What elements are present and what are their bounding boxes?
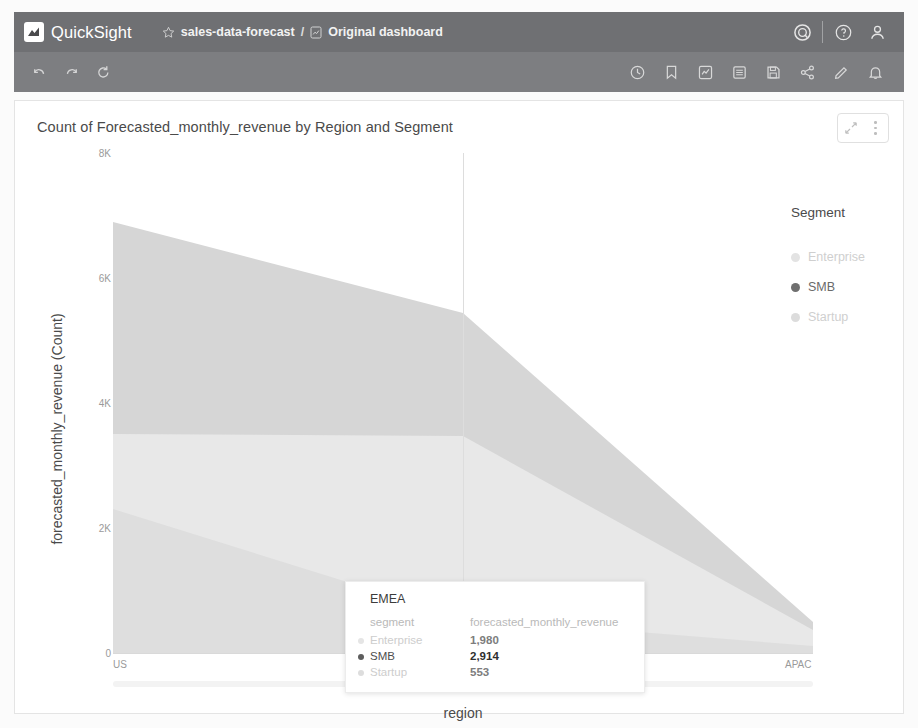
visual-container: Count of Forecasted_monthly_revenue by R… xyxy=(14,100,904,714)
tooltip-row-label: SMB xyxy=(358,648,470,664)
legend-item-label: Startup xyxy=(808,310,848,324)
breadcrumb-sheet-name[interactable]: Original dashboard xyxy=(328,25,443,39)
x-tick: US xyxy=(113,659,127,670)
y-axis-ticks: 8K 6K 4K 2K 0 xyxy=(63,153,111,653)
dashboard-icon xyxy=(310,26,322,39)
legend-item-enterprise[interactable]: Enterprise xyxy=(791,242,901,272)
brand[interactable]: QuickSight xyxy=(24,22,146,42)
tooltip-col-value: forecasted_monthly_revenue xyxy=(470,615,632,632)
y-tick: 6K xyxy=(71,273,111,284)
page-title: Count of Forecasted_monthly_revenue by R… xyxy=(37,119,453,135)
app-header: QuickSight sales-data-forecast / Origina… xyxy=(14,12,904,52)
alerts-icon[interactable] xyxy=(862,59,888,85)
user-profile-icon[interactable] xyxy=(860,12,894,52)
undo-icon[interactable] xyxy=(26,59,52,85)
star-icon[interactable] xyxy=(162,26,175,39)
tooltip-row-label: Enterprise xyxy=(358,632,470,648)
tooltip-marker-icon xyxy=(358,670,364,676)
breadcrumb-separator: / xyxy=(301,25,304,39)
reset-icon[interactable] xyxy=(90,59,116,85)
toolbar-right-group xyxy=(620,59,892,85)
y-tick: 8K xyxy=(71,148,111,159)
tooltip-marker-icon xyxy=(358,638,364,644)
legend-marker-icon xyxy=(791,283,800,292)
y-tick: 4K xyxy=(71,398,111,409)
tooltip-row-value: 2,914 xyxy=(470,648,632,664)
legend-item-smb[interactable]: SMB xyxy=(791,272,901,302)
history-icon[interactable] xyxy=(624,59,650,85)
bookmark-icon[interactable] xyxy=(658,59,684,85)
brand-name: QuickSight xyxy=(51,23,132,42)
tooltip-row-value: 1,980 xyxy=(470,632,632,648)
legend-item-startup[interactable]: Startup xyxy=(791,302,901,332)
tooltip-title: EMEA xyxy=(370,592,632,606)
tooltip-row: Startup 553 xyxy=(358,664,632,680)
y-tick: 2K xyxy=(71,523,111,534)
x-axis-title: region xyxy=(113,705,813,721)
crosshair-line xyxy=(463,153,464,653)
menu-icon[interactable] xyxy=(865,117,887,139)
legend-item-label: Enterprise xyxy=(808,250,865,264)
save-icon[interactable] xyxy=(760,59,786,85)
redo-icon[interactable] xyxy=(58,59,84,85)
legend: Segment Enterprise SMB Startup xyxy=(791,205,901,332)
q-assistant-icon[interactable] xyxy=(785,12,819,52)
expand-icon[interactable] xyxy=(840,117,862,139)
breadcrumb-analysis-name[interactable]: sales-data-forecast xyxy=(181,25,295,39)
tooltip-row-label: Startup xyxy=(358,664,470,680)
help-icon[interactable] xyxy=(826,12,860,52)
legend-item-label: SMB xyxy=(808,280,835,294)
tooltip-marker-icon xyxy=(358,654,364,660)
add-visual-icon[interactable] xyxy=(692,59,718,85)
tooltip-header-row: segment forecasted_monthly_revenue xyxy=(358,615,632,632)
tooltip-col-segment: segment xyxy=(358,615,470,632)
details-icon[interactable] xyxy=(726,59,752,85)
dashboard-page: QuickSight sales-data-forecast / Origina… xyxy=(0,0,918,728)
toolbar xyxy=(14,52,904,92)
header-divider xyxy=(822,21,823,43)
chart: forecasted_monthly_revenue (Count) 8K 6K… xyxy=(15,153,905,715)
share-icon[interactable] xyxy=(794,59,820,85)
tooltip-row-value: 553 xyxy=(470,664,632,680)
header-icon-group xyxy=(785,12,894,52)
edit-icon[interactable] xyxy=(828,59,854,85)
tooltip-row: Enterprise 1,980 xyxy=(358,632,632,648)
y-tick: 0 xyxy=(71,648,111,659)
quicksight-logo-icon xyxy=(24,22,44,42)
legend-marker-icon xyxy=(791,253,800,262)
x-tick: APAC xyxy=(785,659,812,670)
visual-controls xyxy=(837,113,889,143)
chart-tooltip: EMEA segment forecasted_monthly_revenue … xyxy=(345,581,645,693)
legend-title: Segment xyxy=(791,205,901,220)
breadcrumb: sales-data-forecast / Original dashboard xyxy=(162,25,443,39)
legend-marker-icon xyxy=(791,313,800,322)
tooltip-table: segment forecasted_monthly_revenue Enter… xyxy=(358,615,632,680)
tooltip-row: SMB 2,914 xyxy=(358,648,632,664)
